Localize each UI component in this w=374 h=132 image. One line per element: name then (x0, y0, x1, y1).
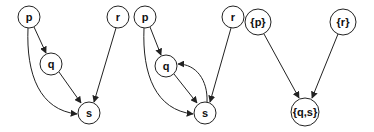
edge-q-s (59, 72, 81, 103)
node-label: r (116, 11, 121, 23)
edge-p-qs (264, 34, 299, 98)
diagram-canvas: p q r s p q r (0, 0, 374, 132)
node-label: q (48, 58, 55, 70)
node-label: s (86, 107, 92, 119)
node-set-r: {r} (330, 9, 356, 35)
node-label: {q,s} (293, 106, 318, 118)
graph-1: p q r s (18, 6, 129, 124)
edge-r-s (94, 28, 116, 102)
graph-2: p q r s (134, 6, 244, 124)
graph-3: {p} {r} {q,s} (245, 9, 356, 126)
node-label: p (26, 11, 33, 23)
node-label: {r} (337, 16, 351, 28)
node-label: p (142, 11, 149, 23)
node-q: q (40, 53, 62, 75)
node-p: p (134, 6, 156, 28)
edge-r-qs (312, 34, 338, 98)
node-set-qs: {q,s} (291, 98, 319, 126)
node-r: r (222, 6, 244, 28)
edge-s-q (178, 64, 207, 102)
edge-q-s (174, 74, 197, 103)
node-r: r (107, 6, 129, 28)
node-label: s (202, 107, 208, 119)
node-s: s (78, 102, 100, 124)
edge-r-s (210, 28, 231, 102)
node-label: q (163, 60, 170, 72)
node-q: q (155, 55, 177, 77)
edge-p-q (150, 27, 161, 55)
node-label: {p} (250, 16, 266, 28)
node-set-p: {p} (245, 9, 271, 35)
edge-p-q (34, 27, 46, 53)
node-p: p (18, 6, 40, 28)
node-s: s (194, 102, 216, 124)
node-label: r (231, 11, 236, 23)
